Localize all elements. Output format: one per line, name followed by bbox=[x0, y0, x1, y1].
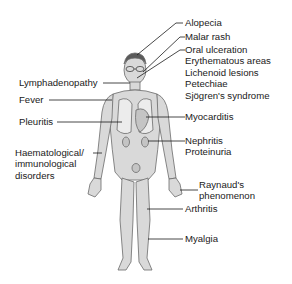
hand-right bbox=[169, 178, 182, 197]
lung-left bbox=[117, 99, 132, 134]
label-pleuritis: Pleuritis bbox=[19, 116, 53, 127]
label-petechiae: Petechiae bbox=[185, 78, 271, 89]
leader-alopecia bbox=[137, 23, 183, 55]
arm-right bbox=[157, 94, 176, 179]
kidney-right bbox=[142, 137, 149, 147]
label-myalgia: Myalgia bbox=[185, 233, 218, 244]
leg-left bbox=[118, 178, 134, 270]
label-raynauds-line-2: phenomenon bbox=[199, 190, 255, 201]
label-raynauds: Raynaud's phenomenon bbox=[199, 179, 255, 202]
label-oral-group: Oral ulceration Erythematous areas Liche… bbox=[185, 44, 271, 101]
label-sjogrens: Sjögren's syndrome bbox=[185, 90, 271, 101]
label-fever: Fever bbox=[19, 94, 44, 105]
label-erythematous-areas: Erythematous areas bbox=[185, 55, 271, 66]
body-diagram bbox=[0, 0, 292, 284]
label-proteinuria: Proteinuria bbox=[185, 146, 231, 157]
label-oral-ulceration: Oral ulceration bbox=[185, 44, 271, 55]
label-arthritis: Arthritis bbox=[185, 203, 218, 214]
label-raynauds-line-1: Raynaud's bbox=[199, 179, 255, 190]
label-alopecia: Alopecia bbox=[185, 17, 222, 28]
label-haematological: Haematological/ immunological disorders bbox=[15, 147, 84, 181]
label-haematological-line-1: Haematological/ bbox=[15, 147, 84, 158]
leader-malar-rash bbox=[143, 37, 185, 72]
label-malar-rash: Malar rash bbox=[185, 31, 230, 42]
arm-left bbox=[94, 94, 113, 179]
label-lichenoid-lesions: Lichenoid lesions bbox=[185, 67, 271, 78]
label-lymphadenopathy: Lymphadenopathy bbox=[19, 77, 98, 88]
label-haematological-line-2: immunological bbox=[15, 158, 84, 169]
body-figure bbox=[88, 53, 182, 270]
kidney-left bbox=[123, 137, 130, 147]
label-myocarditis: Myocarditis bbox=[185, 111, 234, 122]
neck bbox=[130, 82, 140, 90]
label-nephritis-group: Nephritis Proteinuria bbox=[185, 135, 231, 158]
leg-right bbox=[136, 178, 152, 270]
label-haematological-line-3: disorders bbox=[15, 170, 84, 181]
bladder bbox=[132, 164, 140, 173]
label-nephritis: Nephritis bbox=[185, 135, 231, 146]
hand-left bbox=[88, 178, 101, 197]
